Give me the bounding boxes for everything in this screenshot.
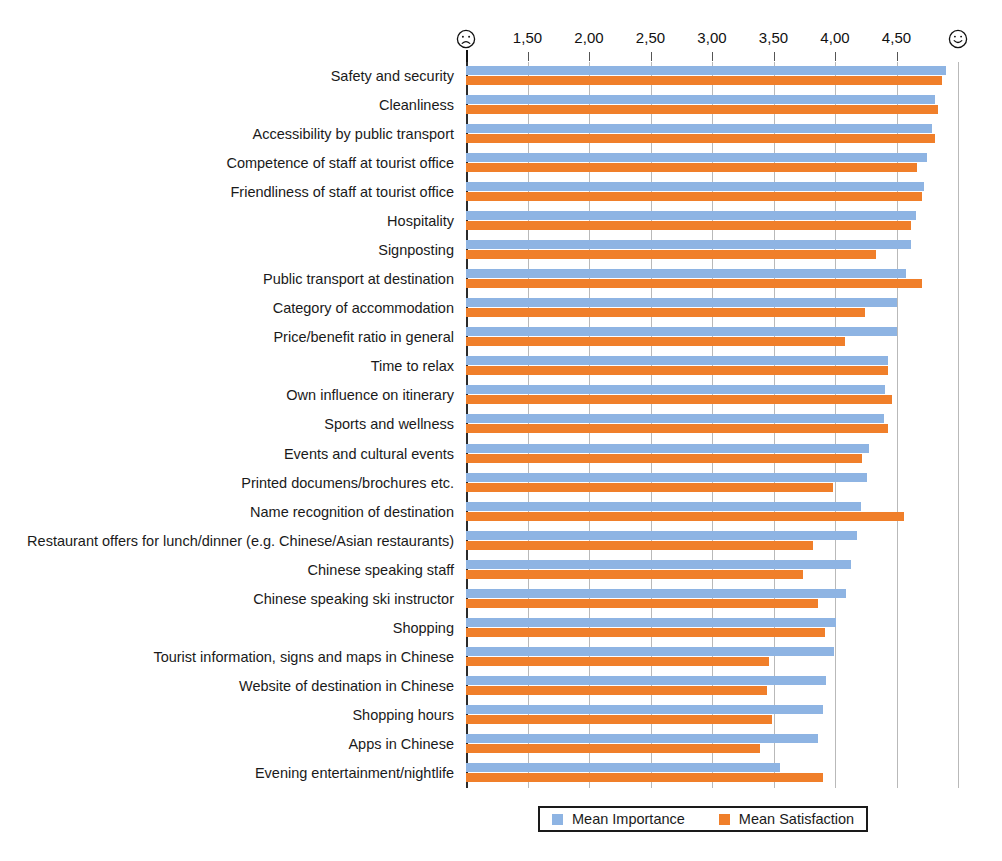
category-label: Time to relax: [371, 352, 454, 381]
x-tick-label: 1,50: [513, 30, 543, 46]
bar-row: [466, 207, 958, 236]
bar-row: [466, 469, 958, 498]
bar-mean-importance: [466, 763, 780, 772]
category-label: Tourist information, signs and maps in C…: [153, 643, 454, 672]
category-label: Shopping hours: [352, 701, 454, 730]
category-label: Competence of staff at tourist office: [226, 149, 454, 178]
bar-mean-satisfaction: [466, 395, 892, 404]
bar-mean-satisfaction: [466, 192, 922, 201]
bar-mean-satisfaction: [466, 366, 888, 375]
bar-mean-importance: [466, 734, 818, 743]
legend-item: Mean Importance: [552, 811, 685, 827]
category-label: Accessibility by public transport: [253, 120, 454, 149]
bar-mean-importance: [466, 647, 834, 656]
category-label: Own influence on itinerary: [286, 381, 454, 410]
bar-mean-satisfaction: [466, 483, 833, 492]
bar-mean-satisfaction: [466, 134, 935, 143]
category-label: Signposting: [378, 236, 454, 265]
bar-mean-satisfaction: [466, 657, 769, 666]
bar-mean-satisfaction: [466, 163, 917, 172]
bar-row: [466, 440, 958, 469]
bar-row: [466, 410, 958, 439]
x-axis-header: 1,502,002,503,003,504,004,50: [0, 0, 1002, 62]
bar-mean-satisfaction: [466, 308, 865, 317]
bar-row: [466, 643, 958, 672]
bar-mean-importance: [466, 502, 861, 511]
bar-mean-satisfaction: [466, 744, 760, 753]
category-label: Sports and wellness: [324, 410, 454, 439]
bar-mean-importance: [466, 473, 867, 482]
bar-mean-satisfaction: [466, 512, 904, 521]
bar-row: [466, 62, 958, 91]
bar-mean-satisfaction: [466, 570, 803, 579]
bar-mean-satisfaction: [466, 628, 825, 637]
category-label: Events and cultural events: [284, 440, 454, 469]
bar-row: [466, 323, 958, 352]
bar-mean-importance: [466, 182, 924, 191]
bar-mean-importance: [466, 589, 846, 598]
bar-mean-satisfaction: [466, 715, 772, 724]
bar-mean-importance: [466, 124, 932, 133]
bar-mean-satisfaction: [466, 454, 862, 463]
bar-row: [466, 701, 958, 730]
bar-mean-importance: [466, 66, 946, 75]
x-tick-label: 4,50: [882, 30, 912, 46]
bar-mean-importance: [466, 327, 897, 336]
category-label: Category of accommodation: [273, 294, 454, 323]
bar-row: [466, 672, 958, 701]
bar-mean-importance: [466, 269, 906, 278]
plot-area: [466, 62, 958, 788]
category-label: Hospitality: [387, 207, 454, 236]
bar-mean-importance: [466, 356, 888, 365]
bar-mean-satisfaction: [466, 541, 813, 550]
bar-mean-importance: [466, 298, 897, 307]
tick-mark: [774, 52, 775, 61]
legend-swatch: [552, 814, 563, 825]
tick-mark: [651, 52, 652, 61]
category-label: Website of destination in Chinese: [239, 672, 454, 701]
bar-mean-satisfaction: [466, 279, 922, 288]
legend-label: Mean Importance: [572, 811, 685, 827]
bar-mean-importance: [466, 95, 935, 104]
x-tick-label: 2,50: [636, 30, 666, 46]
tick-mark: [897, 52, 898, 61]
tick-mark: [589, 52, 590, 61]
legend-label: Mean Satisfaction: [739, 811, 854, 827]
bar-row: [466, 381, 958, 410]
chart-legend: Mean ImportanceMean Satisfaction: [538, 806, 868, 832]
bar-row: [466, 178, 958, 207]
bar-row: [466, 556, 958, 585]
x-tick-label: 3,00: [697, 30, 727, 46]
bar-mean-satisfaction: [466, 76, 942, 85]
category-label: Shopping: [393, 614, 454, 643]
category-label: Cleanliness: [379, 91, 454, 120]
x-tick-label: 4,00: [820, 30, 850, 46]
bar-row: [466, 91, 958, 120]
bar-mean-satisfaction: [466, 773, 823, 782]
frowning-face-icon: [456, 29, 476, 49]
x-tick-label: 3,50: [759, 30, 789, 46]
bar-mean-importance: [466, 560, 851, 569]
bar-mean-satisfaction: [466, 599, 818, 608]
category-label: Chinese speaking ski instructor: [253, 585, 454, 614]
bar-mean-satisfaction: [466, 250, 876, 259]
bar-row: [466, 294, 958, 323]
bar-mean-satisfaction: [466, 105, 938, 114]
category-label: Printed documens/brochures etc.: [241, 469, 454, 498]
bar-mean-importance: [466, 618, 836, 627]
bar-mean-importance: [466, 240, 911, 249]
bar-mean-importance: [466, 705, 823, 714]
category-label: Name recognition of destination: [250, 498, 454, 527]
category-label: Evening entertainment/nightlife: [255, 759, 454, 788]
bar-rows: [466, 62, 958, 788]
bar-mean-importance: [466, 444, 869, 453]
bar-mean-importance: [466, 531, 857, 540]
bar-chart: 1,502,002,503,003,504,004,50 Safety and …: [0, 0, 1002, 861]
tick-mark: [712, 52, 713, 61]
bar-mean-importance: [466, 385, 885, 394]
bar-mean-importance: [466, 414, 884, 423]
bar-row: [466, 614, 958, 643]
category-label: Safety and security: [331, 62, 454, 91]
bar-mean-satisfaction: [466, 221, 911, 230]
bar-mean-satisfaction: [466, 337, 845, 346]
